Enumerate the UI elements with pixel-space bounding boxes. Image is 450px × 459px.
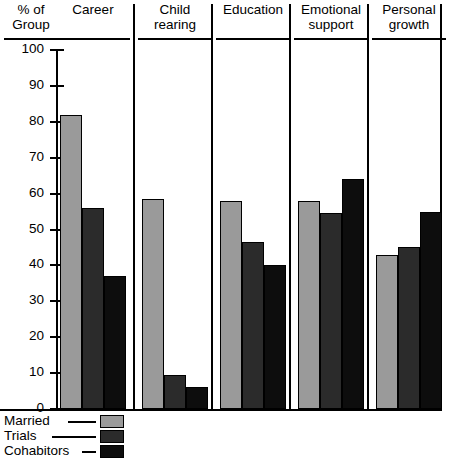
bar (298, 201, 320, 409)
chart-legend: MarriedTrialsCohabitors (4, 414, 174, 459)
bar (398, 247, 420, 409)
legend-connector (52, 436, 96, 438)
legend-item: Married (4, 414, 174, 428)
bar (186, 387, 208, 409)
bar (104, 276, 126, 409)
bar-group (376, 0, 442, 409)
legend-item: Cohabitors (4, 444, 174, 458)
bar (320, 213, 342, 409)
bar (142, 199, 164, 409)
bar-group (142, 0, 208, 409)
legend-label: Cohabitors (4, 444, 69, 458)
bar (164, 375, 186, 409)
legend-label: Trials (4, 429, 37, 443)
legend-swatch (100, 415, 124, 428)
bar (242, 242, 264, 409)
bar (376, 255, 398, 409)
legend-swatch (100, 445, 124, 458)
bar (220, 201, 242, 409)
legend-connector (82, 451, 96, 453)
bar-group (60, 0, 126, 409)
legend-item: Trials (4, 429, 174, 443)
x-axis-line (0, 409, 442, 411)
bar (342, 179, 364, 409)
bar-group (298, 0, 364, 409)
bar (60, 115, 82, 409)
legend-swatch (100, 430, 124, 443)
bar (420, 212, 442, 409)
bars-layer (0, 0, 442, 409)
legend-label: Married (4, 414, 50, 428)
bar (264, 265, 286, 409)
bar (82, 208, 104, 409)
bar-group (220, 0, 286, 409)
legend-connector (68, 421, 96, 423)
